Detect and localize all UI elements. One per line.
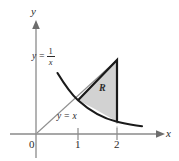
y-axis-label: y — [31, 6, 36, 17]
calculus-region-figure: y x R y = x y = 1 x 0 1 2 — [0, 0, 179, 161]
fraction-numerator: 1 — [47, 47, 53, 56]
x-tick-label-0: 0 — [29, 139, 35, 150]
region-label: R — [99, 83, 106, 93]
curve-equation-lhs: y = — [32, 52, 45, 62]
fraction-one-over-x: 1 x — [47, 47, 55, 66]
curve-equation-label: y = 1 x — [31, 47, 55, 66]
x-tick-label-1: 1 — [75, 139, 81, 150]
x-axis-arrowhead — [156, 130, 165, 138]
figure-canvas — [0, 0, 179, 161]
x-axis-label: x — [166, 128, 171, 139]
y-axis-arrowhead — [32, 20, 40, 29]
x-tick-label-2: 2 — [114, 139, 120, 150]
fraction-denominator: x — [48, 58, 54, 67]
line-equation-label: y = x — [57, 112, 77, 122]
